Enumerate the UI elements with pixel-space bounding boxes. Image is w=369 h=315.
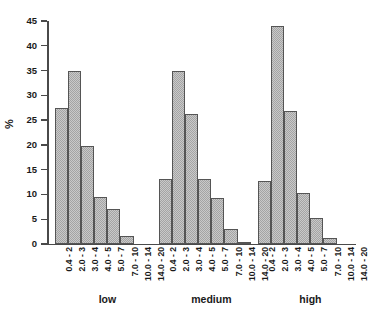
y-tick-label: 30	[15, 90, 37, 100]
y-tick-mark	[41, 194, 47, 195]
bar[interactable]	[297, 193, 310, 244]
x-tick-label-slot: 0.4 - 2	[258, 247, 271, 291]
y-tick-label: 20	[15, 140, 37, 150]
bar[interactable]	[323, 238, 336, 244]
y-axis-line	[47, 21, 49, 245]
x-axis-baseline	[48, 244, 356, 245]
x-tick-label-slot: 10.0 - 14	[238, 247, 251, 291]
x-tick-label-slot: 10.0 - 14	[134, 247, 147, 291]
y-tick-label: 45	[15, 16, 37, 26]
group-label-high: high	[258, 293, 363, 305]
y-tick-mark	[41, 45, 47, 46]
bar[interactable]	[107, 209, 120, 244]
bar[interactable]	[68, 71, 81, 244]
y-tick-label: 40	[15, 41, 37, 51]
y-tick-label: 25	[15, 115, 37, 125]
bar[interactable]	[55, 108, 68, 244]
y-tick-label: 0	[15, 239, 37, 249]
y-tick-label: 10	[15, 189, 37, 199]
x-tick-label-slot: 4.0 - 5	[94, 247, 107, 291]
bar[interactable]	[172, 71, 185, 244]
bars-container	[258, 17, 363, 244]
x-tick-label-slot: 5.0 - 7	[310, 247, 323, 291]
x-tick-label: 14.0 - 20	[360, 247, 369, 281]
y-tick-mark	[41, 119, 47, 120]
bar[interactable]	[258, 181, 271, 244]
x-tick-label-slot: 2.0 - 3	[172, 247, 185, 291]
bar[interactable]	[211, 198, 224, 244]
bar[interactable]	[238, 242, 251, 244]
group-label-low: low	[55, 293, 160, 305]
x-tick-label-slot: 5.0 - 7	[107, 247, 120, 291]
x-tick-label-slot: 7.0 - 10	[121, 247, 134, 291]
x-tick-label-slot: 7.0 - 10	[225, 247, 238, 291]
bar[interactable]	[120, 236, 133, 244]
bar[interactable]	[310, 218, 323, 244]
x-tick-label-slot: 3.0 - 4	[185, 247, 198, 291]
bar[interactable]	[185, 114, 198, 244]
x-tick-label-slot: 10.0 - 14	[337, 247, 350, 291]
bars-container	[55, 17, 160, 244]
x-tick-label-slot: 0.4 - 2	[159, 247, 172, 291]
y-tick-label: 35	[15, 66, 37, 76]
bar[interactable]	[159, 179, 172, 244]
y-tick-mark	[41, 95, 47, 96]
bar[interactable]	[271, 26, 284, 244]
x-tick-label-slot: 14.0 - 20	[350, 247, 363, 291]
y-axis-title: %	[3, 119, 15, 129]
y-tick-label: 5	[15, 214, 37, 224]
bars-container	[159, 17, 264, 244]
x-tick-label-slot: 3.0 - 4	[81, 247, 94, 291]
y-tick-mark	[41, 20, 47, 21]
x-tick-label-slot: 2.0 - 3	[68, 247, 81, 291]
y-tick-label: 15	[15, 165, 37, 175]
bar[interactable]	[198, 179, 211, 244]
x-tick-label-slot: 3.0 - 4	[284, 247, 297, 291]
x-tick-label-slot: 4.0 - 5	[198, 247, 211, 291]
y-tick-mark	[41, 70, 47, 71]
group-label-medium: medium	[159, 293, 264, 305]
x-tick-label-slot: 5.0 - 7	[211, 247, 224, 291]
y-tick-mark	[41, 243, 47, 244]
x-tick-label-slot: 4.0 - 5	[297, 247, 310, 291]
y-tick-mark	[41, 144, 47, 145]
x-tick-label-slot: 0.4 - 2	[55, 247, 68, 291]
bar[interactable]	[224, 229, 237, 244]
bar[interactable]	[284, 111, 297, 244]
x-tick-label-slot: 7.0 - 10	[324, 247, 337, 291]
y-tick-mark	[41, 169, 47, 170]
bar[interactable]	[94, 197, 107, 244]
bar[interactable]	[81, 146, 94, 244]
x-tick-label-slot: 2.0 - 3	[271, 247, 284, 291]
y-tick-mark	[41, 219, 47, 220]
x-tick-label-slot: 14.0 - 20	[147, 247, 160, 291]
